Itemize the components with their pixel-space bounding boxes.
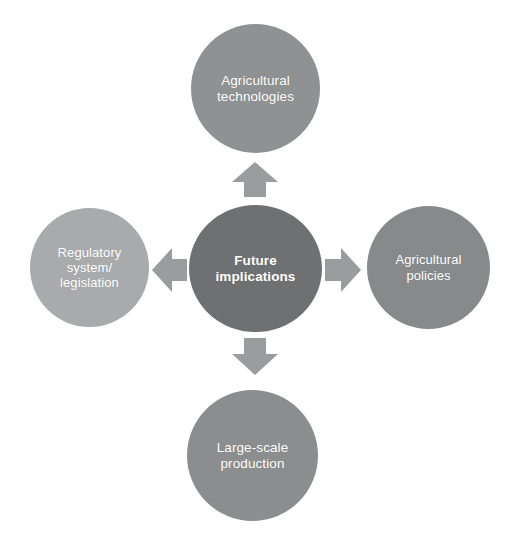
node-label-agricultural-technologies: Agricultural technologies [217, 73, 294, 105]
arrow-left-icon [152, 248, 187, 292]
arrow-right-icon [325, 248, 361, 292]
node-regulatory-system-legislation[interactable]: Regulatory system/ legislation [30, 208, 149, 327]
node-label-large-scale-production: Large-scale production [217, 440, 289, 472]
node-label-agricultural-policies: Agricultural policies [395, 252, 461, 283]
node-label-regulatory-system-legislation: Regulatory system/ legislation [58, 245, 122, 291]
node-agricultural-technologies[interactable]: Agricultural technologies [191, 24, 320, 153]
node-label-future-implications: Future implications [216, 253, 296, 285]
node-agricultural-policies[interactable]: Agricultural policies [367, 206, 490, 329]
arrow-down-icon [232, 338, 278, 375]
node-large-scale-production[interactable]: Large-scale production [187, 390, 318, 521]
node-future-implications[interactable]: Future implications [189, 205, 322, 332]
arrow-up-icon [232, 162, 278, 197]
implications-diagram: Agricultural technologies Regulatory sys… [0, 0, 511, 535]
